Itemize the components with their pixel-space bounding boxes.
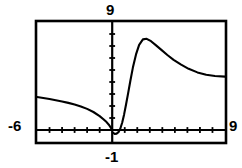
plot-canvas [0, 0, 242, 168]
x-axis-min-label: -6 [8, 118, 21, 133]
y-axis-min-label: -1 [105, 149, 118, 164]
x-axis-max-label: 9 [229, 118, 237, 133]
plot-figure: 9 -6 9 -1 [0, 0, 242, 168]
y-axis-max-label: 9 [106, 2, 114, 17]
